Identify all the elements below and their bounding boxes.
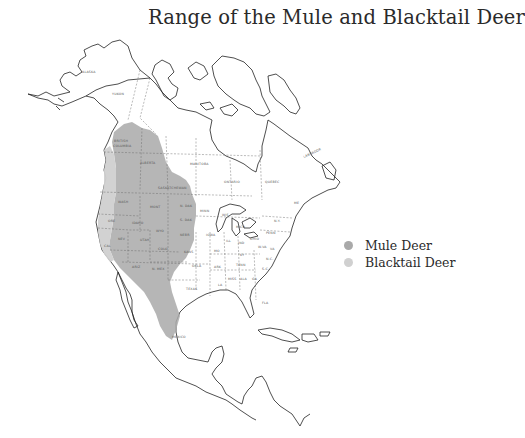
label-ore: ORE bbox=[108, 219, 115, 223]
label-miss: MISS bbox=[228, 277, 237, 281]
label-alberta: ALBERTA bbox=[140, 161, 156, 165]
blacktail-deer-swatch-icon bbox=[344, 258, 353, 267]
label-saskatchewan: SASKATCHEWAN bbox=[158, 186, 187, 190]
label-british-columbia-1: BRITISH bbox=[114, 139, 128, 143]
label-fla: FLA bbox=[262, 301, 269, 305]
label-wis: WIS bbox=[222, 213, 229, 217]
label-ny: N.Y. bbox=[274, 219, 281, 223]
label-ontario: ONTARIO bbox=[224, 180, 240, 184]
label-manitoba: MANITOBA bbox=[190, 162, 209, 166]
label-colo: COLO bbox=[158, 247, 168, 251]
cuba-outline bbox=[258, 328, 300, 342]
label-okla: OKLA bbox=[192, 264, 202, 268]
label-ind: IND bbox=[238, 241, 245, 245]
label-minn: MINN bbox=[200, 209, 210, 213]
label-iowa: IOWA bbox=[206, 233, 216, 237]
label-s-dak: S. DAK bbox=[180, 218, 193, 222]
legend-item-mule-deer: Mule Deer bbox=[344, 237, 455, 254]
legend-label: Blacktail Deer bbox=[365, 255, 455, 270]
label-wash: WASH bbox=[118, 200, 129, 204]
legend-label: Mule Deer bbox=[365, 238, 432, 253]
label-british-columbia-2: COLUMBIA bbox=[113, 144, 132, 148]
label-penn: PENN bbox=[266, 231, 276, 235]
label-wyo: WYO bbox=[156, 229, 164, 233]
label-texas: TEXAS bbox=[185, 287, 197, 291]
label-la: LA bbox=[218, 283, 223, 287]
label-ala: ALA bbox=[240, 277, 247, 281]
us-coast-outline bbox=[176, 216, 296, 404]
legend: Mule Deer Blacktail Deer bbox=[344, 237, 455, 271]
label-tenn: TENN bbox=[235, 263, 246, 267]
label-ohio: OHIO bbox=[250, 237, 259, 241]
arctic-islands-outline bbox=[152, 60, 178, 100]
label-idaho: IDAHO bbox=[132, 221, 144, 225]
label-nc: N.C. bbox=[266, 257, 273, 261]
label-mo: MO bbox=[214, 249, 220, 253]
label-kans: KANS bbox=[184, 250, 193, 254]
label-quebec: QUEBEC bbox=[265, 180, 280, 184]
label-nev: NEV bbox=[118, 237, 126, 241]
label-va: VA bbox=[270, 247, 275, 251]
label-ark: ARK bbox=[214, 265, 222, 269]
label-mexico: MEXICO bbox=[172, 335, 186, 339]
label-nebr: NEBR bbox=[180, 233, 190, 237]
label-me: ME bbox=[294, 201, 299, 205]
label-yukon: YUKON bbox=[112, 92, 125, 96]
label-wva: W.VA bbox=[258, 245, 267, 249]
label-ky: KY bbox=[240, 253, 244, 257]
map-title: Range of the Mule and Blacktail Deer bbox=[148, 6, 525, 29]
label-ariz: ARIZ bbox=[132, 265, 141, 269]
mule-deer-swatch-icon bbox=[344, 241, 353, 250]
label-alaska: ALASKA bbox=[82, 70, 96, 74]
label-mich: MICH bbox=[236, 225, 246, 229]
label-calif: CAL bbox=[104, 244, 111, 248]
legend-item-blacktail-deer: Blacktail Deer bbox=[344, 254, 455, 271]
label-mont: MONT bbox=[150, 205, 160, 209]
label-ill: ILL bbox=[226, 239, 231, 243]
label-n-mex: N. MEX bbox=[152, 267, 165, 271]
label-ga: GA bbox=[252, 277, 258, 281]
label-utah: UTAH bbox=[140, 238, 150, 242]
label-sc: S.C. bbox=[262, 267, 269, 271]
label-n-dak: N. DAK bbox=[180, 204, 193, 208]
mule-deer-range bbox=[110, 122, 196, 340]
